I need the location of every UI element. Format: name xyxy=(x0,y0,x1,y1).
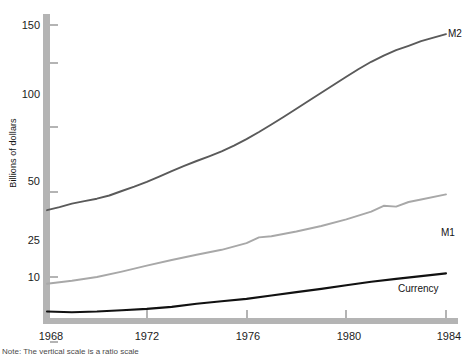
y-tick-label-25: 25 xyxy=(6,234,40,246)
money-supply-line-chart: Billions of dollars 150 100 50 25 10 196… xyxy=(0,0,471,354)
series-label-m1: M1 xyxy=(441,227,455,238)
x-tick-1984 xyxy=(445,310,447,319)
x-axis-line xyxy=(43,318,458,324)
series-line-m1 xyxy=(47,194,446,283)
y-axis-line xyxy=(43,14,50,322)
y-tick-10 xyxy=(50,276,58,278)
y-tick-label-10: 10 xyxy=(6,271,40,283)
x-tick-label-1976: 1976 xyxy=(218,330,278,342)
x-tick-label-1972: 1972 xyxy=(117,330,177,342)
x-tick-label-1968: 1968 xyxy=(21,330,81,342)
x-tick-1972 xyxy=(146,310,148,319)
y-tick-50 xyxy=(50,126,58,128)
x-tick-1976 xyxy=(246,310,248,319)
plot-area xyxy=(0,0,471,354)
y-tick-label-50: 50 xyxy=(6,175,40,187)
series-line-currency xyxy=(47,273,446,312)
y-axis-tick-labels: 150 100 50 25 10 xyxy=(0,0,40,354)
y-tick-150 xyxy=(50,24,58,26)
x-tick-label-1980: 1980 xyxy=(319,330,379,342)
series-label-m2: M2 xyxy=(448,28,462,39)
chart-footnote: Note: The vertical scale is a ratio scal… xyxy=(2,347,302,354)
y-tick-25 xyxy=(50,191,58,193)
y-tick-100 xyxy=(50,62,58,64)
x-tick-label-1984: 1984 xyxy=(419,330,471,342)
x-tick-1980 xyxy=(345,310,347,319)
y-tick-label-100: 100 xyxy=(6,88,40,100)
series-line-m2 xyxy=(47,34,446,210)
series-label-currency: Currency xyxy=(398,283,439,294)
y-tick-label-150: 150 xyxy=(6,19,40,31)
